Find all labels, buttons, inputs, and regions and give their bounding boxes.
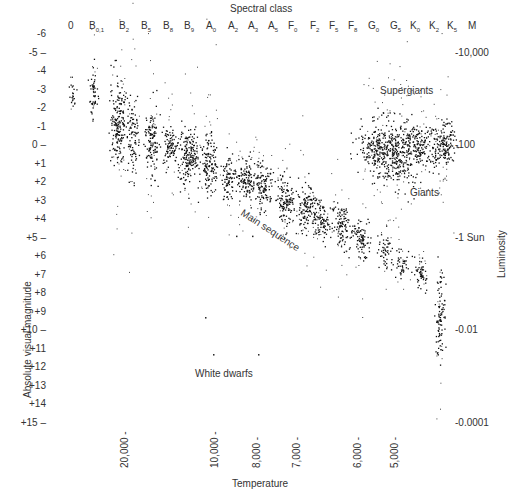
luminosity-tick: -100 [455, 139, 475, 150]
chart-title: Spectral class [230, 3, 292, 14]
magnitude-tick: +7 [14, 269, 46, 280]
magnitude-tick: +2 [14, 176, 46, 187]
annotation-supergiants: Supergiants [380, 85, 433, 96]
temperature-tick: 7,000 - [291, 437, 302, 468]
spectral-class-label: G5 [390, 20, 401, 33]
magnitude-tick: 0 – [14, 139, 46, 150]
magnitude-tick: +4 [14, 213, 46, 224]
temperature-tick: 20,000 - [119, 431, 130, 468]
magnitude-tick: -4 [14, 65, 46, 76]
spectral-class-label: A2 [228, 20, 238, 33]
magnitude-tick: +15 – [14, 417, 46, 428]
magnitude-tick: +6 [14, 250, 46, 261]
temperature-tick: 8,000 - [251, 437, 262, 468]
magnitude-tick: +1 [14, 158, 46, 169]
spectral-class-label: F5 [329, 20, 338, 33]
luminosity-tick: -0.01 [455, 324, 478, 335]
spectral-class-label: K0 [410, 20, 420, 33]
y-axis-label: Absolute visual magnitude [22, 281, 33, 398]
luminosity-tick: -1 Sun [455, 232, 484, 243]
temperature-tick: 6,000 - [352, 437, 363, 468]
y2-axis-label: Luminosity [496, 230, 507, 278]
spectral-class-label: G0 [368, 20, 379, 33]
magnitude-tick: -6 [14, 28, 46, 39]
spectral-class-label: F0 [288, 20, 297, 33]
annotation-giants: Giants [410, 187, 439, 198]
spectral-class-label: A3 [248, 20, 258, 33]
magnitude-tick: +3 [14, 195, 46, 206]
spectral-class-label: B9 [184, 20, 194, 33]
spectral-class-label: B0,1 [89, 20, 104, 33]
spectral-class-label: B8 [163, 20, 173, 33]
spectral-class-label: F8 [348, 20, 357, 33]
spectral-class-label: B2 [119, 20, 129, 33]
x-axis-label: Temperature [232, 478, 288, 489]
magnitude-tick: -1 [14, 121, 46, 132]
spectral-class-label: 0 [68, 20, 74, 33]
luminosity-tick: -0.0001 [455, 417, 489, 428]
spectral-class-label: A5 [268, 20, 278, 33]
magnitude-tick: +5 – [14, 232, 46, 243]
magnitude-tick: -2 [14, 102, 46, 113]
spectral-class-label: K5 [447, 20, 457, 33]
spectral-class-label: B5 [141, 20, 151, 33]
spectral-class-label: A0 [206, 20, 216, 33]
annotation-white-dwarfs: White dwarfs [195, 368, 253, 379]
temperature-tick: 10,000 - [209, 431, 220, 468]
spectral-class-label: M [468, 20, 476, 33]
luminosity-tick: -10,000 [455, 47, 489, 58]
magnitude-tick: +14 [14, 398, 46, 409]
magnitude-tick: -5 – [14, 47, 46, 58]
spectral-class-label: F2 [310, 20, 319, 33]
temperature-tick: 5,000 - [389, 437, 400, 468]
spectral-class-label: K2 [429, 20, 439, 33]
hr-diagram-plot [0, 0, 520, 498]
magnitude-tick: -3 [14, 84, 46, 95]
